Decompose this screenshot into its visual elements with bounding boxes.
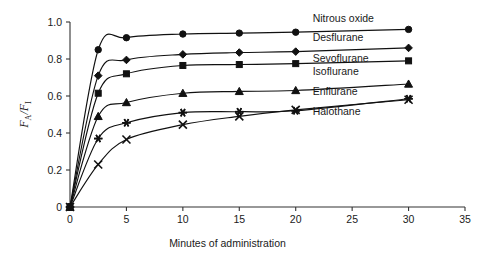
data-point-marker-asterisk <box>122 119 130 126</box>
data-point-marker-square <box>236 62 242 68</box>
x-axis-title: Minutes of administration <box>169 237 286 249</box>
series-labels: Nitrous oxideDesfluraneSevofluraneIsoflu… <box>313 12 374 117</box>
data-point-marker-circle <box>405 26 411 32</box>
y-tick-label: 1.0 <box>47 16 62 28</box>
series-sevoflurane <box>67 58 412 210</box>
data-point-marker-square <box>180 62 186 68</box>
y-tick-label: 0.4 <box>47 127 62 139</box>
data-point-marker-square <box>123 71 129 77</box>
data-point-marker-diamond <box>179 51 187 59</box>
x-tick-label: 20 <box>290 213 302 225</box>
y-axis-title: FA/FI <box>17 101 33 129</box>
x-tick-label: 30 <box>403 213 415 225</box>
series-label-sevoflurane: Sevoflurane <box>313 52 369 64</box>
svg-text:FA/FI: FA/FI <box>17 101 33 129</box>
y-tick-label: 0 <box>56 201 62 213</box>
series-line <box>70 84 409 207</box>
data-point-marker-asterisk <box>179 109 187 116</box>
data-point-marker-circle <box>123 35 129 41</box>
x-tick-label: 0 <box>67 213 73 225</box>
x-tick-label: 15 <box>233 213 245 225</box>
series-label-enflurane: Enflurane <box>313 85 358 97</box>
series-desflurane <box>66 44 412 211</box>
series-line <box>70 61 409 207</box>
series-label-isoflurane: Isoflurane <box>313 65 359 77</box>
data-point-marker-circle <box>293 29 299 35</box>
series-enflurane <box>66 95 413 210</box>
data-point-marker-diamond <box>123 56 131 64</box>
data-point-marker-diamond <box>235 49 243 57</box>
data-point-marker-diamond <box>405 44 413 52</box>
data-point-marker-cross <box>94 160 102 168</box>
y-tick-label: 0.8 <box>47 53 62 65</box>
anesthetic-uptake-line-chart: 0510152025303500.20.40.60.81.0 Nitrous o… <box>0 0 491 265</box>
series-label-halothane: Halothane <box>313 105 361 117</box>
x-tick-label: 35 <box>459 213 471 225</box>
series-label-nitrous-oxide: Nitrous oxide <box>313 12 374 24</box>
data-point-marker-square <box>406 58 412 64</box>
x-tick-label: 5 <box>124 213 130 225</box>
data-point-marker-square <box>293 61 299 67</box>
chart-container: 0510152025303500.20.40.60.81.0 Nitrous o… <box>0 0 491 265</box>
data-point-marker-diamond <box>94 72 102 80</box>
series-label-desflurane: Desflurane <box>313 31 364 43</box>
data-point-marker-diamond <box>292 48 300 56</box>
series-isoflurane <box>66 80 413 210</box>
x-tick-label: 10 <box>177 213 189 225</box>
data-point-marker-square <box>95 90 101 96</box>
data-point-marker-circle <box>95 47 101 53</box>
data-point-marker-cross <box>122 135 130 143</box>
data-point-marker-circle <box>236 30 242 36</box>
data-point-marker-triangle <box>94 112 102 119</box>
y-tick-label: 0.6 <box>47 90 62 102</box>
y-tick-label: 0.2 <box>47 164 62 176</box>
x-tick-label: 25 <box>346 213 358 225</box>
data-point-marker-asterisk <box>94 135 102 142</box>
data-point-marker-circle <box>180 31 186 37</box>
